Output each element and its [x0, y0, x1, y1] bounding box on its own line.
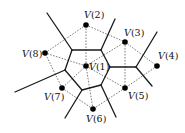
delaunay-edge	[125, 66, 157, 88]
site-label-v4: V(4)	[158, 50, 178, 61]
voronoi-edge	[101, 19, 115, 50]
site-point-v2	[83, 22, 89, 28]
voronoi-edge	[82, 85, 101, 90]
site-label-v6: V(6)	[86, 113, 106, 124]
delaunay-edge	[45, 53, 62, 88]
site-point-v8	[42, 50, 48, 56]
delaunay-edge	[45, 53, 86, 66]
site-point-v7	[59, 85, 65, 91]
site-point-v6	[90, 106, 96, 112]
site-label-v5: V(5)	[128, 90, 148, 101]
delaunay-edge	[45, 25, 86, 53]
site-label-v3: V(3)	[124, 27, 144, 38]
voronoi-edge	[65, 70, 82, 90]
voronoi-edge	[65, 50, 72, 70]
site-label-v1: V(1)	[89, 61, 109, 72]
site-point-v3	[122, 39, 128, 45]
delaunay-edge	[93, 88, 125, 109]
site-point-v5	[122, 85, 128, 91]
site-label-v7: V(7)	[44, 91, 64, 102]
voronoi-edge	[136, 67, 152, 86]
voronoi-edge	[15, 70, 65, 92]
voronoi-edge	[65, 90, 82, 118]
voronoi-edge	[47, 13, 72, 50]
site-label-v8: V(8)	[22, 48, 42, 59]
site-point-v4	[154, 63, 160, 69]
site-label-v2: V(2)	[84, 9, 104, 20]
site-point-v1	[83, 63, 89, 69]
voronoi-diagram: V(1)V(2)V(3)V(4)V(5)V(6)V(7)V(8)	[0, 0, 185, 133]
delaunay-edge	[125, 42, 157, 66]
